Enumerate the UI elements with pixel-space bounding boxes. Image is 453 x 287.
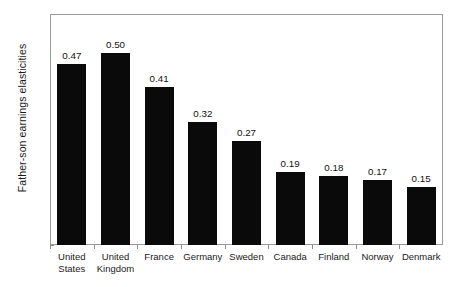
bar[interactable] (188, 122, 217, 245)
x-axis-category-label-line: Germany (183, 251, 222, 263)
x-axis-category-label-line: States (58, 263, 85, 275)
bar-value-label: 0.41 (150, 73, 169, 84)
bar-chart-figure: Father-son earnings elasticities 00.10.2… (0, 0, 453, 287)
x-axis-category-label: Canada (274, 251, 307, 263)
x-axis-category-label: UnitedKingdom (97, 251, 135, 274)
x-axis-category-label: France (144, 251, 174, 263)
x-axis-category-label-line: Norway (361, 251, 393, 263)
x-axis-category-label-line: United (58, 251, 85, 263)
bar-value-label: 0.50 (106, 39, 125, 50)
x-axis-category-label-line: France (144, 251, 174, 263)
x-axis-category-label-line: Denmark (402, 251, 441, 263)
bar[interactable] (57, 64, 86, 245)
bar[interactable] (276, 172, 305, 245)
bar[interactable] (407, 187, 436, 245)
x-axis-tick-mark (399, 245, 400, 249)
x-axis-tick-mark (225, 245, 226, 249)
bar-value-label: 0.15 (412, 173, 431, 184)
bar[interactable] (232, 141, 261, 245)
bar-value-label: 0.27 (237, 127, 256, 138)
bar[interactable] (101, 53, 130, 246)
bar-value-label: 0.47 (62, 50, 81, 61)
x-axis-category-label-line: United (97, 251, 135, 263)
bar-value-label: 0.17 (368, 166, 387, 177)
x-axis-tick-mark (50, 245, 51, 249)
x-axis-category-label: Sweden (229, 251, 263, 263)
bar-value-label: 0.18 (324, 162, 343, 173)
x-axis-category-label-line: Canada (274, 251, 307, 263)
x-axis-tick-mark (312, 245, 313, 249)
bar-value-label: 0.19 (281, 158, 300, 169)
x-axis-category-label-line: Sweden (229, 251, 263, 263)
bar[interactable] (363, 180, 392, 245)
bar[interactable] (319, 176, 348, 245)
x-axis-category-label: Norway (361, 251, 393, 263)
x-axis-tick-mark (137, 245, 138, 249)
x-axis-category-label-line: Kingdom (97, 263, 135, 275)
x-axis-tick-mark (181, 245, 182, 249)
x-axis-tick-mark (356, 245, 357, 249)
x-axis-tick-mark (94, 245, 95, 249)
x-axis-category-label: Germany (183, 251, 222, 263)
bar[interactable] (145, 87, 174, 245)
x-axis-category-label: UnitedStates (58, 251, 85, 274)
x-axis-category-label: Finland (318, 251, 349, 263)
x-axis-category-label-line: Finland (318, 251, 349, 263)
bar-value-label: 0.32 (193, 108, 212, 119)
x-axis-category-label: Denmark (402, 251, 441, 263)
y-axis-title: Father-son earnings elasticities (16, 8, 28, 228)
x-axis-tick-mark (268, 245, 269, 249)
